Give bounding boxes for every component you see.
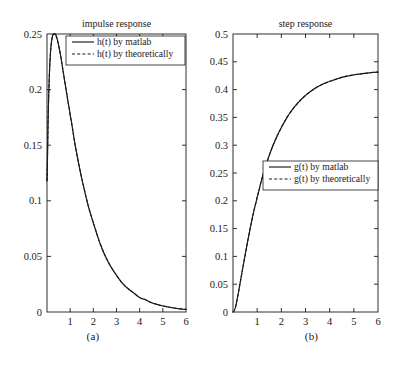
plot-panel-impulse-response: impulse response12345600.050.10.150.20.2…	[0, 0, 198, 367]
series-line-1	[47, 34, 186, 310]
y-tick-label: 0.25	[24, 29, 42, 40]
x-tick-label: 5	[160, 316, 165, 327]
caption-b: (b)	[212, 330, 397, 342]
y-tick-label: 0.45	[210, 56, 228, 67]
x-tick-label: 6	[375, 316, 380, 327]
legend-label-1: g(t) by theoretically	[294, 173, 370, 185]
y-tick-label: 0.05	[210, 279, 228, 290]
x-tick-label: 4	[137, 316, 143, 327]
y-tick-label: 0.2	[29, 84, 42, 95]
y-tick-label: 0.3	[215, 140, 228, 151]
series-line-0	[233, 72, 378, 312]
x-tick-label: 3	[303, 316, 308, 327]
caption-a: (a)	[0, 330, 192, 342]
y-tick-label: 0.1	[215, 251, 228, 262]
y-tick-label: 0	[37, 307, 42, 318]
axes-frame	[47, 34, 186, 312]
legend-label-0: h(t) by matlab	[97, 36, 152, 48]
step-response-chart: step response12345600.050.10.150.20.250.…	[198, 0, 397, 330]
legend-label-1: h(t) by theoretically	[97, 48, 173, 60]
x-tick-label: 2	[279, 316, 284, 327]
x-tick-label: 5	[351, 316, 356, 327]
y-tick-label: 0.25	[210, 168, 228, 179]
x-tick-label: 1	[68, 316, 73, 327]
y-tick-label: 0.2	[215, 195, 228, 206]
plot-panel-step-response: step response12345600.050.10.150.20.250.…	[198, 0, 397, 367]
y-tick-label: 0.35	[210, 112, 228, 123]
y-tick-label: 0	[223, 307, 228, 318]
chart-title: impulse response	[82, 18, 152, 29]
x-tick-label: 4	[327, 316, 333, 327]
legend: h(t) by matlabh(t) by theoretically	[66, 36, 185, 65]
y-tick-label: 0.5	[215, 29, 228, 40]
x-tick-label: 2	[91, 316, 96, 327]
y-tick-label: 0.05	[24, 251, 42, 262]
x-tick-label: 1	[255, 316, 260, 327]
x-tick-label: 6	[183, 316, 188, 327]
legend: g(t) by matlabg(t) by theoretically	[263, 161, 378, 190]
y-tick-label: 0.15	[210, 223, 228, 234]
y-tick-label: 0.15	[24, 140, 42, 151]
y-tick-label: 0.1	[29, 195, 42, 206]
series-line-0	[47, 34, 186, 310]
y-axis: 00.050.10.150.20.25	[24, 29, 186, 318]
impulse-response-chart: impulse response12345600.050.10.150.20.2…	[0, 0, 198, 330]
y-tick-label: 0.4	[215, 84, 229, 95]
x-axis: 123456	[68, 34, 189, 327]
figure-container: impulse response12345600.050.10.150.20.2…	[0, 0, 397, 367]
legend-label-0: g(t) by matlab	[294, 161, 349, 173]
x-tick-label: 3	[114, 316, 119, 327]
series-line-1	[233, 72, 378, 312]
chart-title: step response	[279, 18, 333, 29]
